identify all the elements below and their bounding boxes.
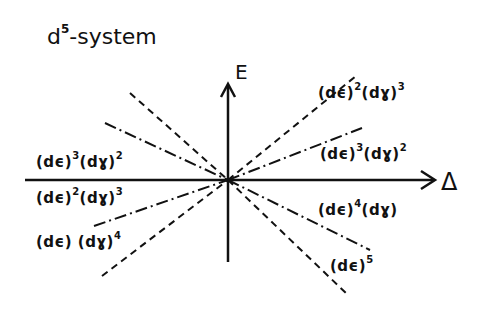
delta-axis-label: Δ xyxy=(441,168,457,196)
dashed-line-lower-right xyxy=(228,180,348,295)
title-base: d xyxy=(47,24,61,49)
config-label-lower-right-dashdot: (dϵ)4(dɣ) xyxy=(318,200,398,219)
config-label-upper-right-dashed: (dϵ)2(dɣ)3 xyxy=(318,83,405,102)
diagram-title: d5-system xyxy=(47,24,157,49)
energy-axis-label: E xyxy=(235,60,248,84)
config-label-lower-left-dashed: (dϵ) (dɣ)4 xyxy=(36,232,121,251)
title-rest: -system xyxy=(69,24,156,49)
dashed-line-upper-left xyxy=(130,93,228,180)
diagram-canvas: d5-system E Δ (dϵ)2(dɣ)3 (dϵ)3(dɣ)2 (dϵ)… xyxy=(0,0,484,311)
config-label-upper-right-dashdot: (dϵ)3(dɣ)2 xyxy=(320,144,407,163)
config-label-upper-left-dashdot: (dϵ)3(dɣ)2 xyxy=(36,152,123,171)
title-superscript: 5 xyxy=(61,22,69,36)
config-label-lower-left-dashdot: (dϵ)2(dɣ)3 xyxy=(36,188,123,207)
dashdot-line-upper-left xyxy=(105,123,228,180)
config-label-lower-right-dashed: (dϵ)5 xyxy=(330,256,374,275)
